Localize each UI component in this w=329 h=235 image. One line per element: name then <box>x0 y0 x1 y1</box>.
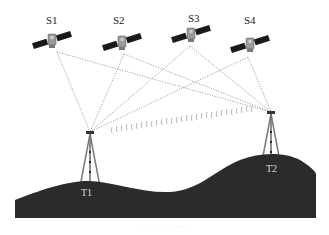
satellite-label-s1: S1 <box>46 14 58 26</box>
satellite-label-s4: S4 <box>244 14 256 26</box>
satellite-s1-icon <box>32 31 72 49</box>
radio-link-waves <box>111 106 252 133</box>
satellite-label-s2: S2 <box>113 14 125 26</box>
figure-caption: · · · · · · · · · <box>0 223 329 231</box>
satellite-s2-icon <box>102 33 142 51</box>
satellite-s4-icon <box>230 35 270 53</box>
signal-links <box>57 46 271 132</box>
station-label-t1: T1 <box>81 187 92 198</box>
satellite-s3-icon <box>171 25 211 43</box>
satellite-label-s3: S3 <box>188 12 200 24</box>
gnss-diagram: S1 S2 S3 S4 T1 T2 <box>0 0 329 235</box>
station-label-t2: T2 <box>266 163 277 174</box>
